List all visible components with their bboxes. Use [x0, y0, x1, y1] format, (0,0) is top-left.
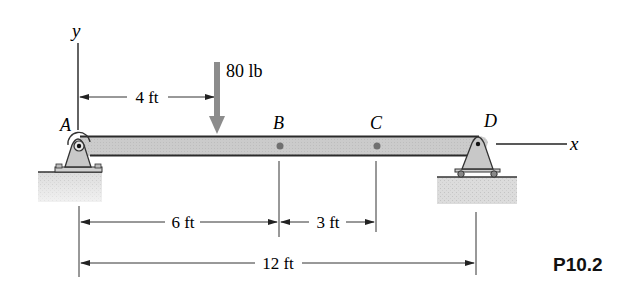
dimension-label-12ft: 12 ft	[262, 254, 294, 273]
point-c-marker	[374, 143, 381, 150]
arrowhead-icon	[268, 219, 278, 225]
arrowhead-icon	[79, 94, 89, 100]
point-b-marker	[277, 143, 284, 150]
load-arrow: 80 lb	[209, 61, 263, 134]
y-axis-label: y	[70, 20, 81, 41]
point-label-c: C	[370, 113, 383, 133]
arrowhead-icon	[280, 219, 290, 225]
pin-icon	[476, 142, 480, 146]
point-label-a: A	[59, 115, 72, 135]
x-axis-label: x	[569, 133, 579, 154]
arrowhead-icon	[80, 260, 90, 266]
ground-right	[437, 177, 517, 204]
problem-number-label: P10.2	[553, 254, 603, 275]
dimension-label-3ft: 3 ft	[316, 213, 339, 232]
arrowhead-icon	[205, 94, 215, 100]
dimension-a-to-d: 12 ft	[80, 254, 475, 273]
dimension-load-offset: 4 ft	[79, 88, 215, 107]
dimension-a-to-b: 6 ft	[80, 213, 278, 232]
pin-icon	[77, 144, 81, 148]
x-axis: x	[496, 133, 579, 154]
arrowhead-icon	[465, 260, 475, 266]
point-label-d: D	[483, 111, 497, 131]
down-arrow-icon	[214, 62, 220, 118]
arrowhead-icon	[365, 219, 375, 225]
roller-wheel-icon	[491, 171, 497, 177]
roller-wheel-icon	[458, 171, 464, 177]
dimension-label-6ft: 6 ft	[171, 213, 194, 232]
beam	[80, 136, 488, 156]
point-label-b: B	[273, 113, 284, 133]
dimension-b-to-c: 3 ft	[280, 213, 375, 232]
beam-diagram: y 4 ft 80 lb A B C D	[0, 0, 629, 300]
y-axis: y	[70, 20, 81, 130]
load-magnitude-label: 80 lb	[226, 61, 263, 81]
dimension-label-4ft: 4 ft	[135, 88, 158, 107]
arrowhead-icon	[80, 219, 90, 225]
